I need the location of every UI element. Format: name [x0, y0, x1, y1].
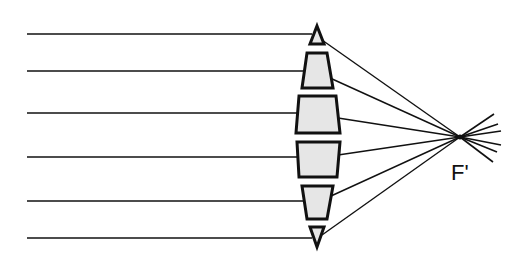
prism-3: [296, 96, 340, 133]
diverging-ray: [460, 124, 498, 137]
refracted-rays: [322, 40, 501, 235]
diverging-ray: [460, 137, 497, 152]
prism-2: [302, 53, 333, 88]
prism-5: [302, 186, 333, 219]
prism-bottom-triangle: [310, 227, 324, 247]
fresnel-lens-prisms: [296, 26, 340, 247]
converging-ray: [322, 137, 460, 235]
converging-ray: [330, 78, 460, 137]
converging-ray: [322, 40, 460, 137]
focal-point: [458, 135, 463, 140]
incoming-parallel-rays: [27, 34, 312, 238]
prism-top-triangle: [310, 26, 324, 44]
fresnel-lens-diagram: [0, 0, 531, 262]
converging-ray: [338, 118, 460, 137]
focal-point-label: F': [451, 162, 469, 184]
prism-4: [297, 142, 340, 177]
